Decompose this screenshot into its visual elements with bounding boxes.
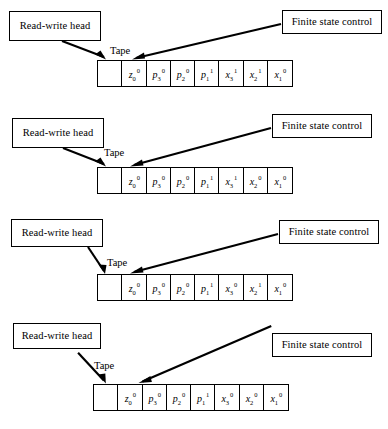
- tape-label: Tape: [104, 148, 124, 159]
- finite-state-control-arrowhead: [139, 376, 152, 383]
- read-write-head-arrowhead: [95, 51, 106, 60]
- tape-cell: p11: [191, 385, 215, 410]
- turing-machine-figure: Read-write head Finite state control Tap…: [0, 0, 388, 429]
- tape-cell: z00: [122, 168, 146, 193]
- finite-state-control-leader-line: [134, 128, 271, 165]
- tape-cell: p20: [171, 61, 195, 86]
- finite-state-control-leader-line: [136, 24, 281, 58]
- tape-cell: p30: [147, 275, 171, 300]
- tape-cell: p11: [195, 275, 219, 300]
- finite-state-control-label-box: Finite state control: [279, 220, 379, 244]
- finite-state-control-label-box: Finite state control: [272, 333, 372, 357]
- read-write-head-label-box: Read-write head: [9, 11, 101, 41]
- finite-state-control-arrowhead: [130, 160, 144, 167]
- tape-cell: x10: [264, 385, 288, 410]
- tape-label: Tape: [107, 258, 127, 269]
- read-write-head-label-box: Read-write head: [13, 323, 101, 349]
- tape-4: z00 p30 p20 p11 x30 x20 x10: [93, 384, 289, 411]
- tape-cell: p11: [195, 61, 219, 86]
- tape-cell: p20: [171, 275, 195, 300]
- tape-cell: z00: [118, 385, 142, 410]
- tape-cell: x10: [268, 61, 292, 86]
- tape-1: z00 p30 p20 p11 x31 x21 x10: [97, 60, 293, 87]
- tape-3: z00 p30 p20 p11 x30 x21 x10: [97, 274, 293, 301]
- finite-state-control-arrowhead: [130, 267, 144, 274]
- tape-cell: x21: [244, 61, 268, 86]
- tape-cell: z00: [122, 61, 146, 86]
- tape-cell: x20: [244, 168, 268, 193]
- tape-cell: [98, 168, 122, 193]
- tape-cell: [98, 61, 122, 86]
- read-write-head-arrowhead: [98, 374, 106, 384]
- read-write-head-label: Read-write head: [20, 21, 91, 32]
- read-write-head-label: Read-write head: [22, 228, 93, 239]
- finite-state-control-label-box: Finite state control: [272, 114, 372, 138]
- tape-cell: x21: [244, 275, 268, 300]
- tape-cell: [94, 385, 118, 410]
- tape-2: z00 p30 p20 p11 x31 x20 x10: [97, 167, 293, 194]
- tape-cell: x10: [268, 275, 292, 300]
- tape-panel-4: Read-write head Finite state control Tap…: [0, 321, 388, 428]
- read-write-head-label-box: Read-write head: [11, 219, 103, 247]
- tape-panel-1: Read-write head Finite state control Tap…: [0, 0, 388, 107]
- finite-state-control-leader-line: [142, 326, 271, 381]
- tape-cell: x30: [219, 275, 243, 300]
- read-write-head-label-box: Read-write head: [12, 118, 104, 148]
- finite-state-control-label-box: Finite state control: [282, 10, 382, 34]
- tape-cell: x31: [219, 168, 243, 193]
- finite-state-control-arrowhead: [132, 53, 145, 60]
- tape-cell: x20: [240, 385, 264, 410]
- tape-cell: x31: [219, 61, 243, 86]
- tape-cell: p11: [195, 168, 219, 193]
- finite-state-control-label: Finite state control: [292, 17, 373, 28]
- finite-state-control-label: Finite state control: [282, 121, 363, 132]
- finite-state-control-label: Finite state control: [289, 227, 370, 238]
- tape-cell: x10: [268, 168, 292, 193]
- tape-cell: x30: [215, 385, 239, 410]
- finite-state-control-label: Finite state control: [282, 340, 363, 351]
- tape-cell: z00: [122, 275, 146, 300]
- tape-cell: p30: [143, 385, 167, 410]
- tape-label: Tape: [110, 46, 130, 57]
- read-write-head-label: Read-write head: [22, 331, 93, 342]
- read-write-head-arrowhead: [95, 158, 106, 167]
- tape-cell: p30: [147, 168, 171, 193]
- tape-cell: p20: [171, 168, 195, 193]
- read-write-head-arrowhead: [99, 265, 107, 275]
- finite-state-control-leader-line: [134, 234, 278, 272]
- tape-cell: p30: [147, 61, 171, 86]
- tape-label: Tape: [94, 361, 114, 372]
- read-write-head-label: Read-write head: [23, 128, 94, 139]
- tape-cell: [98, 275, 122, 300]
- tape-panel-2: Read-write head Finite state control Tap…: [0, 107, 388, 214]
- tape-cell: p20: [167, 385, 191, 410]
- tape-panel-3: Read-write head Finite state control Tap…: [0, 214, 388, 321]
